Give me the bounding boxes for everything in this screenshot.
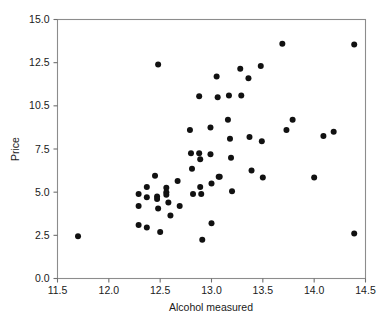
y-tick-label: 2.5 (35, 229, 50, 241)
x-tick-label: 14.0 (304, 284, 325, 296)
data-point (215, 94, 221, 100)
data-point (209, 181, 215, 187)
data-point (279, 41, 285, 47)
y-tick-label: 5.0 (35, 186, 50, 198)
data-point (246, 134, 252, 140)
y-tick-label: 15.0 (29, 13, 50, 25)
data-point (177, 203, 183, 209)
x-axis-tick-labels: 11.512.012.513.013.514.014.5 (48, 284, 376, 296)
x-tick-label: 14.5 (355, 284, 376, 296)
data-point (155, 61, 161, 67)
data-point (75, 233, 81, 239)
data-point (207, 151, 213, 157)
y-axis-title: Price (9, 137, 21, 161)
data-point (320, 133, 326, 139)
y-tick-label: 7.5 (35, 143, 50, 155)
y-tick-label: 12.5 (29, 56, 50, 68)
data-point (207, 124, 213, 130)
y-tick-label: 0.0 (35, 272, 50, 284)
data-point (229, 188, 235, 194)
data-point (249, 168, 255, 174)
data-point (260, 174, 266, 180)
data-point (351, 231, 357, 237)
data-point (152, 173, 158, 179)
y-tick-label: 10.5 (29, 99, 50, 111)
data-point (228, 155, 234, 161)
data-point (245, 75, 251, 81)
data-point (196, 93, 202, 99)
data-point (144, 194, 150, 200)
data-point (225, 117, 231, 123)
scatter-plot-figure: 11.512.012.513.013.514.014.5 0.02.55.07.… (0, 0, 380, 322)
data-point (136, 203, 142, 209)
data-point (167, 212, 173, 218)
data-point (283, 127, 289, 133)
data-point (259, 138, 265, 144)
data-point (209, 220, 215, 226)
plot-frame (58, 20, 366, 279)
y-axis-ticks (54, 20, 58, 279)
data-point (214, 73, 220, 79)
data-point (163, 192, 169, 198)
data-point (311, 174, 317, 180)
data-point (165, 200, 171, 206)
data-point (197, 184, 203, 190)
data-point (175, 178, 181, 184)
data-point (187, 127, 193, 133)
scatter-points-group (75, 41, 357, 243)
data-point (157, 229, 163, 235)
x-tick-label: 13.0 (201, 284, 222, 296)
data-point (189, 166, 195, 172)
data-point (331, 129, 337, 135)
data-point (237, 66, 243, 72)
plot-canvas: 11.512.012.513.013.514.014.5 0.02.55.07.… (0, 0, 380, 322)
data-point (136, 222, 142, 228)
data-point (226, 92, 232, 98)
x-axis-ticks (58, 279, 366, 283)
x-tick-label: 13.5 (253, 284, 274, 296)
data-point (188, 150, 194, 156)
data-point (217, 174, 223, 180)
data-point (136, 191, 142, 197)
data-point (258, 63, 264, 69)
x-tick-label: 12.5 (150, 284, 171, 296)
x-tick-label: 12.0 (99, 284, 120, 296)
data-point (199, 237, 205, 243)
data-point (190, 191, 196, 197)
data-point (198, 191, 204, 197)
data-point (155, 206, 161, 212)
x-axis-title: Alcohol measured (169, 301, 253, 313)
data-point (351, 42, 357, 48)
x-tick-label: 11.5 (48, 284, 68, 296)
data-point (144, 184, 150, 190)
data-point (197, 156, 203, 162)
data-point (196, 150, 202, 156)
data-point (290, 117, 296, 123)
y-axis-tick-labels: 0.02.55.07.510.512.515.0 (29, 13, 50, 284)
data-point (227, 136, 233, 142)
data-point (154, 196, 160, 202)
data-point (238, 92, 244, 98)
data-point (144, 225, 150, 231)
